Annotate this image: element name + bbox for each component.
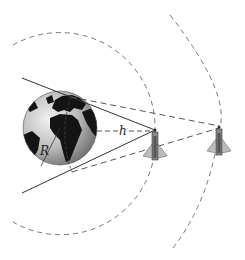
altitude-label: h [118, 125, 128, 137]
outer-orbit-arc [170, 15, 221, 248]
radius-label: R [40, 145, 49, 157]
satellite-far-icon [207, 126, 231, 156]
diagram-canvas: R h [0, 0, 245, 260]
